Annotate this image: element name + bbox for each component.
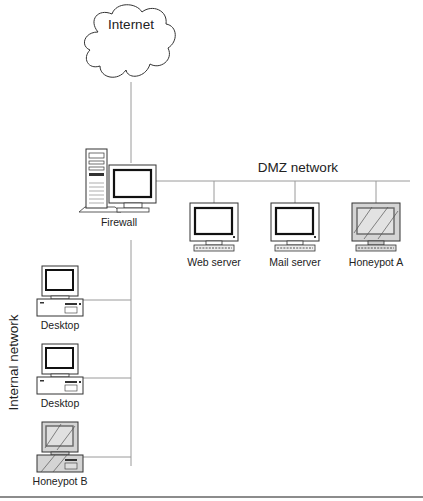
desktop-2-label: Desktop: [30, 397, 90, 409]
desktop-1-label: Desktop: [30, 319, 90, 331]
internet-cloud-icon: [84, 5, 175, 78]
honeypot-b-icon: [37, 422, 83, 472]
dmz-network-label: DMZ network: [238, 160, 358, 175]
desktop-1-icon: [37, 266, 83, 316]
web-server-icon: [190, 203, 238, 251]
honeypot-a-icon: [352, 203, 400, 251]
internet-label: Internet: [106, 17, 156, 32]
firewall-label: Firewall: [94, 216, 144, 228]
mail-server-label: Mail server: [265, 256, 325, 268]
internal-network-label: Internal network: [6, 308, 21, 418]
firewall-icon: [79, 149, 156, 212]
web-server-label: Web server: [184, 256, 244, 268]
mail-server-icon: [271, 203, 319, 251]
honeypot-a-label: Honeypot A: [346, 256, 406, 268]
desktop-2-icon: [37, 344, 83, 394]
bottom-rule: [0, 496, 423, 498]
honeypot-b-label: Honeypot B: [30, 475, 90, 487]
connection-lines: [82, 82, 410, 466]
